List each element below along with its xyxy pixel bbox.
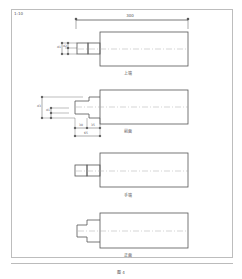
caption-divider xyxy=(11,263,233,264)
view-label-side: 手端 xyxy=(124,192,132,198)
view-label-front: 前面 xyxy=(124,128,132,134)
dim-top-d1: d1 xyxy=(57,45,61,49)
overall-dimension-label: 300 xyxy=(126,13,134,18)
view-label-main: 正面 xyxy=(124,252,132,258)
view-front-shape xyxy=(41,90,188,137)
figure-caption: 图 4 xyxy=(117,269,125,275)
dim-front-h1: d1 xyxy=(46,108,50,112)
dim-front-w1: 30 xyxy=(79,123,83,127)
view-label-top: 上端 xyxy=(124,70,132,76)
view-top-shape xyxy=(61,18,189,66)
dim-front-w-total: 65 xyxy=(84,131,88,135)
dim-front-w2: 35 xyxy=(91,123,95,127)
dim-front-total-height: d3 xyxy=(37,104,41,108)
dim-top-d2: d2 xyxy=(63,44,67,48)
view-side-shape xyxy=(75,153,188,187)
view-main-shape xyxy=(77,213,188,248)
technical-drawing xyxy=(0,0,242,279)
